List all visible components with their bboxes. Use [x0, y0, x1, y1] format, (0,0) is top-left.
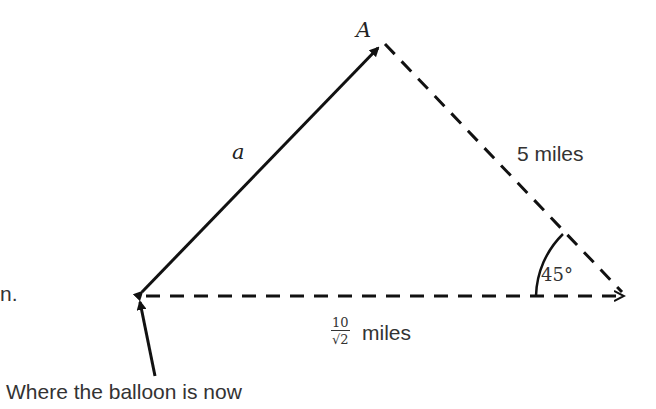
side-a-label: a [232, 140, 245, 164]
side-5-miles-label: 5 miles [517, 142, 584, 166]
side-5-miles-line [385, 44, 622, 292]
pointer-caption: Where the balloon is now [6, 380, 242, 404]
side-a-line [142, 48, 378, 292]
base-fraction: 10 √2 [331, 315, 350, 348]
angle-label: 45° [541, 264, 573, 285]
cut-off-text: n. [0, 282, 18, 306]
triangle-diagram [0, 0, 656, 409]
fraction-numerator: 10 [331, 315, 350, 331]
base-unit-label: miles [362, 321, 411, 345]
fraction-denominator: √2 [332, 331, 349, 348]
pointer-arrow [140, 302, 155, 376]
vertex-a-label: A [356, 18, 371, 42]
